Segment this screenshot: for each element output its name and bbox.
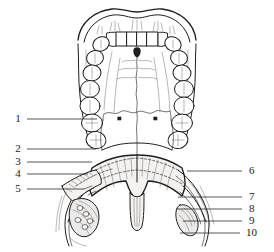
label-number-2: 2 (15, 142, 21, 154)
incisive-papilla (134, 48, 140, 57)
label-number-1: 1 (15, 112, 21, 124)
label-number-6: 6 (249, 164, 255, 176)
label-number-9: 9 (249, 214, 255, 226)
label-number-3: 3 (15, 155, 21, 167)
uvula (130, 193, 144, 231)
label-number-7: 7 (249, 190, 255, 202)
maxillary-incisors (106, 32, 168, 46)
label-number-4: 4 (15, 167, 21, 179)
palatal-muscles (69, 198, 99, 236)
oral-cavity-illustration: Oral cavity viewed from below: hard pala… (0, 0, 274, 252)
label-number-10: 10 (246, 226, 258, 238)
label-number-8: 8 (249, 202, 255, 214)
anatomical-figure: Oral cavity viewed from below: hard pala… (0, 0, 274, 252)
label-number-5: 5 (15, 182, 21, 194)
